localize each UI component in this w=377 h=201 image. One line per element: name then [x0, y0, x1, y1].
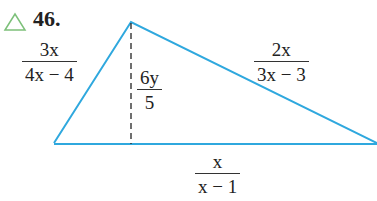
left-side-denominator: 4x − 4 — [22, 65, 77, 84]
height-numerator: 6y — [137, 68, 162, 87]
right-side-denominator: 3x − 3 — [254, 65, 309, 84]
right-side-label: 2x 3x − 3 — [254, 40, 309, 84]
left-side-numerator: 3x — [37, 40, 62, 59]
left-side-label: 3x 4x − 4 — [22, 40, 77, 84]
base-denominator: x − 1 — [195, 177, 240, 196]
right-side-numerator: 2x — [269, 40, 294, 59]
triangle-marker-icon — [5, 14, 25, 30]
height-label: 6y 5 — [137, 68, 162, 112]
problem-number: 46. — [33, 6, 61, 32]
height-denominator: 5 — [142, 93, 158, 112]
base-label: x x − 1 — [195, 152, 240, 196]
triangle-outline — [54, 22, 377, 143]
base-numerator: x — [210, 152, 226, 171]
